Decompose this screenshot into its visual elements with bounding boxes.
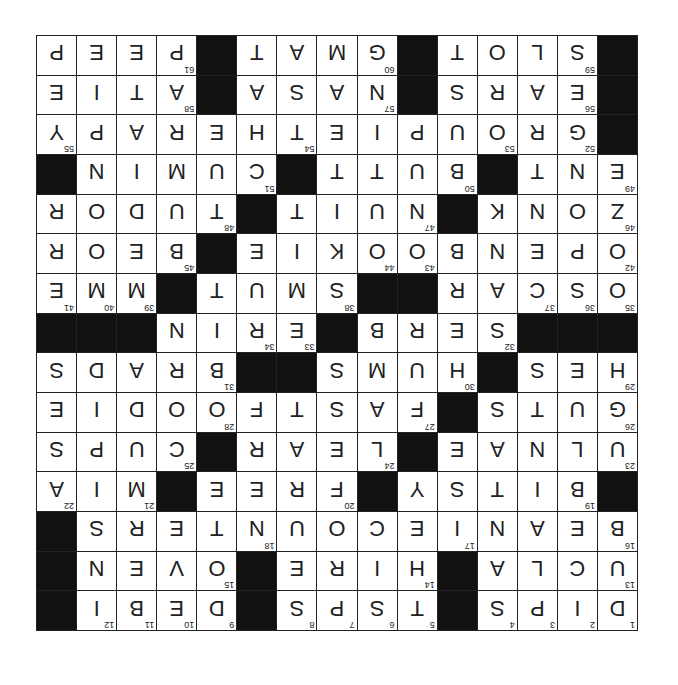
- grid-cell[interactable]: M: [157, 155, 196, 194]
- grid-cell[interactable]: 24L: [358, 433, 397, 472]
- grid-cell[interactable]: A: [277, 433, 316, 472]
- grid-cell[interactable]: 6S: [358, 591, 397, 630]
- grid-cell[interactable]: U: [398, 155, 437, 194]
- grid-cell[interactable]: S: [478, 393, 517, 432]
- grid-cell[interactable]: R: [157, 115, 196, 154]
- grid-cell[interactable]: V: [157, 552, 196, 591]
- grid-cell[interactable]: P: [77, 433, 116, 472]
- grid-cell[interactable]: 45B: [157, 234, 196, 273]
- grid-cell[interactable]: U: [398, 353, 437, 392]
- grid-cell[interactable]: E: [117, 234, 156, 273]
- grid-cell[interactable]: O: [317, 512, 356, 551]
- grid-cell[interactable]: I: [117, 155, 156, 194]
- grid-cell[interactable]: I: [197, 314, 236, 353]
- grid-cell[interactable]: 60G: [358, 36, 397, 75]
- grid-cell[interactable]: 58A: [157, 76, 196, 115]
- grid-cell[interactable]: T: [317, 155, 356, 194]
- grid-cell[interactable]: 3P: [518, 591, 557, 630]
- grid-cell[interactable]: L: [518, 36, 557, 75]
- grid-cell[interactable]: 50B: [438, 155, 477, 194]
- grid-cell[interactable]: 20F: [317, 472, 356, 511]
- grid-cell[interactable]: 40M: [77, 274, 116, 313]
- grid-cell[interactable]: 15O: [197, 552, 236, 591]
- grid-cell[interactable]: 43O: [398, 234, 437, 273]
- grid-cell[interactable]: I: [277, 234, 316, 273]
- grid-cell[interactable]: 59S: [558, 36, 597, 75]
- grid-cell[interactable]: I: [518, 472, 557, 511]
- grid-cell[interactable]: 12I: [77, 591, 116, 630]
- grid-cell[interactable]: U: [237, 274, 276, 313]
- grid-cell[interactable]: S: [518, 353, 557, 392]
- grid-cell[interactable]: E: [317, 115, 356, 154]
- grid-cell[interactable]: O: [77, 234, 116, 273]
- grid-cell[interactable]: M: [358, 353, 397, 392]
- grid-cell[interactable]: S: [438, 76, 477, 115]
- grid-cell[interactable]: 14H: [398, 552, 437, 591]
- grid-cell[interactable]: U: [358, 195, 397, 234]
- grid-cell[interactable]: C: [558, 552, 597, 591]
- grid-cell[interactable]: N: [558, 155, 597, 194]
- grid-cell[interactable]: T: [197, 512, 236, 551]
- grid-cell[interactable]: U: [197, 155, 236, 194]
- grid-cell[interactable]: R: [37, 234, 76, 273]
- grid-cell[interactable]: N: [77, 552, 116, 591]
- grid-cell[interactable]: 9D: [197, 591, 236, 630]
- grid-cell[interactable]: E: [37, 393, 76, 432]
- grid-cell[interactable]: T: [277, 195, 316, 234]
- grid-cell[interactable]: T: [237, 36, 276, 75]
- grid-cell[interactable]: A: [277, 36, 316, 75]
- grid-cell[interactable]: 35O: [598, 274, 637, 313]
- grid-cell[interactable]: I: [358, 115, 397, 154]
- grid-cell[interactable]: 33E: [277, 314, 316, 353]
- grid-cell[interactable]: A: [518, 512, 557, 551]
- grid-cell[interactable]: U: [117, 433, 156, 472]
- grid-cell[interactable]: B: [438, 234, 477, 273]
- grid-cell[interactable]: A: [358, 393, 397, 432]
- grid-cell[interactable]: A: [478, 433, 517, 472]
- grid-cell[interactable]: E: [558, 353, 597, 392]
- grid-cell[interactable]: A: [117, 115, 156, 154]
- grid-cell[interactable]: A: [478, 552, 517, 591]
- grid-cell[interactable]: T: [518, 155, 557, 194]
- grid-cell[interactable]: S: [37, 353, 76, 392]
- grid-cell[interactable]: I: [317, 195, 356, 234]
- grid-cell[interactable]: 5T: [398, 591, 437, 630]
- grid-cell[interactable]: 11B: [117, 591, 156, 630]
- grid-cell[interactable]: P: [558, 234, 597, 273]
- grid-cell[interactable]: 37C: [518, 274, 557, 313]
- grid-cell[interactable]: 17I: [438, 512, 477, 551]
- grid-cell[interactable]: R: [117, 512, 156, 551]
- grid-cell[interactable]: E: [117, 36, 156, 75]
- grid-cell[interactable]: 28O: [197, 393, 236, 432]
- grid-cell[interactable]: 61P: [157, 36, 196, 75]
- grid-cell[interactable]: R: [518, 115, 557, 154]
- grid-cell[interactable]: 10E: [157, 591, 196, 630]
- grid-cell[interactable]: N: [518, 195, 557, 234]
- grid-cell[interactable]: R: [237, 433, 276, 472]
- grid-cell[interactable]: S: [317, 393, 356, 432]
- grid-cell[interactable]: A: [237, 76, 276, 115]
- grid-cell[interactable]: 53O: [478, 115, 517, 154]
- grid-cell[interactable]: S: [77, 512, 116, 551]
- grid-cell[interactable]: R: [277, 472, 316, 511]
- grid-cell[interactable]: 26G: [598, 393, 637, 432]
- grid-cell[interactable]: 2I: [558, 591, 597, 630]
- grid-cell[interactable]: N: [478, 234, 517, 273]
- grid-cell[interactable]: O: [77, 195, 116, 234]
- grid-cell[interactable]: M: [317, 36, 356, 75]
- grid-cell[interactable]: U: [157, 195, 196, 234]
- grid-cell[interactable]: 22A: [37, 472, 76, 511]
- grid-cell[interactable]: 57N: [358, 76, 397, 115]
- grid-cell[interactable]: 51C: [237, 155, 276, 194]
- grid-cell[interactable]: O: [558, 195, 597, 234]
- grid-cell[interactable]: 36S: [558, 274, 597, 313]
- grid-cell[interactable]: T: [277, 393, 316, 432]
- grid-cell[interactable]: N: [157, 314, 196, 353]
- grid-cell[interactable]: 32S: [478, 314, 517, 353]
- grid-cell[interactable]: 19B: [558, 472, 597, 511]
- grid-cell[interactable]: E: [37, 76, 76, 115]
- grid-cell[interactable]: D: [117, 195, 156, 234]
- grid-cell[interactable]: 41E: [37, 274, 76, 313]
- grid-cell[interactable]: T: [438, 36, 477, 75]
- grid-cell[interactable]: 48T: [197, 195, 236, 234]
